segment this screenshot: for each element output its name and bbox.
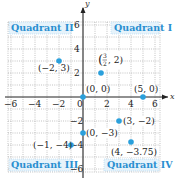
- point-label: (−2, 3): [38, 63, 70, 73]
- quadrant-iii-label: Quadrant III: [11, 159, 79, 170]
- point-0-neg3: [80, 130, 86, 136]
- point-3half-2: [98, 70, 104, 76]
- x-tick: −6: [4, 99, 18, 109]
- quadrant-i-label: Quadrant I: [114, 22, 173, 33]
- point-label: (0, −3): [86, 128, 118, 138]
- point-label: (−1, −4): [33, 140, 72, 150]
- x-tick: 2: [104, 99, 110, 109]
- y-tick: 6: [74, 20, 80, 30]
- point-label-den: 2: [103, 60, 107, 67]
- point-4-neg3-75: [128, 139, 134, 145]
- x-tick: 6: [152, 99, 158, 109]
- quadrant-iv-label: Quadrant IV: [107, 159, 173, 170]
- y-tick: 4: [74, 44, 80, 54]
- coordinate-plane: x y −6 −4 −2 0 2 4 6 6 4 2 −2 −4 −6 Quad…: [0, 0, 177, 181]
- x-axis-label: x: [170, 92, 175, 101]
- point-5-0: [140, 94, 146, 100]
- point-label: (0, 0): [86, 84, 110, 94]
- quadrant-ii-label: Quadrant II: [11, 22, 74, 33]
- y-tick: −2: [70, 116, 83, 126]
- point-0-0: [80, 94, 86, 100]
- x-tick: 0: [77, 99, 83, 109]
- point-label: (5, 0): [134, 84, 158, 94]
- x-axis-arrow-icon: [162, 95, 168, 100]
- point-label: (4, −3.75): [111, 147, 157, 157]
- y-tick: 2: [74, 68, 80, 78]
- x-tick: −4: [28, 99, 42, 109]
- point-label-num: 3: [103, 52, 107, 59]
- x-tick: 4: [128, 99, 134, 109]
- y-axis-label: y: [84, 0, 90, 8]
- point-label-close: , 2): [108, 55, 123, 65]
- point-label: (3, −2): [123, 116, 155, 126]
- x-tick: −2: [52, 99, 65, 109]
- point-3-neg2: [116, 118, 122, 124]
